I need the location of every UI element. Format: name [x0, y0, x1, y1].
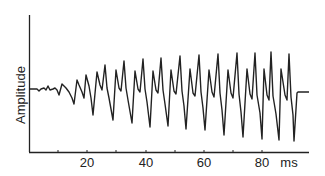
y-axis-label: Amplitude: [13, 66, 28, 124]
x-tick-label-20: 20: [80, 155, 94, 170]
waveform-chart: 20 40 60 80 ms Amplitude: [0, 0, 325, 176]
waveform-trace: [29, 52, 309, 141]
x-tick-label-80: 80: [255, 155, 269, 170]
x-tick-label-40: 40: [139, 155, 153, 170]
x-axis-unit: ms: [280, 155, 298, 170]
x-tick-label-60: 60: [197, 155, 211, 170]
x-ticks: [58, 150, 262, 152]
